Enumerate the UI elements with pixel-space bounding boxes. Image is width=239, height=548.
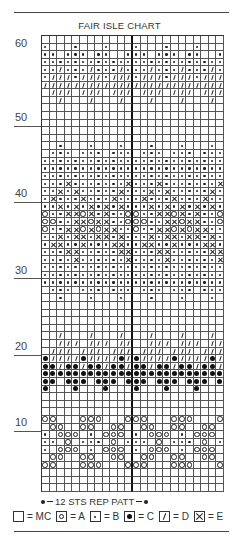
stitch-cell <box>163 150 171 158</box>
stitch-cell <box>42 249 50 257</box>
stitch-cell <box>80 393 88 401</box>
stitch-cell <box>118 424 126 432</box>
stitch-cell <box>80 287 88 295</box>
large-dot-icon <box>124 511 135 522</box>
stitch-cell <box>103 241 111 249</box>
stitch-cell <box>209 188 217 196</box>
row-label-40: 40 <box>15 187 27 199</box>
stitch-cell <box>42 355 50 363</box>
stitch-cell <box>118 317 126 325</box>
stitch-cell <box>110 416 118 424</box>
stitch-cell <box>57 469 65 477</box>
stitch-cell <box>133 446 141 454</box>
stitch-cell <box>118 249 126 257</box>
stitch-cell <box>65 378 73 386</box>
stitch-cell <box>133 188 141 196</box>
stitch-cell <box>156 264 164 272</box>
stitch-cell <box>163 188 171 196</box>
stitch-cell <box>95 439 103 447</box>
stitch-cell <box>216 249 224 257</box>
stitch-cell <box>141 332 149 340</box>
stitch-cell <box>194 424 202 432</box>
stitch-cell <box>201 74 209 82</box>
stitch-cell <box>194 484 202 492</box>
stitch-cell <box>216 256 224 264</box>
stitch-cell <box>57 112 65 120</box>
stitch-cell <box>80 256 88 264</box>
stitch-cell <box>65 294 73 302</box>
stitch-cell <box>95 462 103 470</box>
stitch-cell <box>42 279 50 287</box>
stitch-cell <box>57 393 65 401</box>
stitch-cell <box>209 226 217 234</box>
stitch-cell <box>125 310 133 318</box>
stitch-cell <box>141 44 149 52</box>
stitch-cell <box>171 370 179 378</box>
stitch-cell <box>179 332 187 340</box>
stitch-cell <box>80 203 88 211</box>
stitch-cell <box>72 408 80 416</box>
stitch-cell <box>57 325 65 333</box>
stitch-cell <box>65 279 73 287</box>
stitch-cell <box>171 302 179 310</box>
stitch-cell <box>72 120 80 128</box>
stitch-cell <box>118 310 126 318</box>
stitch-cell <box>186 120 194 128</box>
stitch-cell <box>103 82 111 90</box>
stitch-cell <box>209 135 217 143</box>
stitch-cell <box>201 249 209 257</box>
legend-item-d: = D <box>159 511 189 522</box>
stitch-cell <box>65 82 73 90</box>
stitch-cell <box>141 234 149 242</box>
stitch-cell <box>72 104 80 112</box>
stitch-cell <box>103 249 111 257</box>
stitch-cell <box>133 408 141 416</box>
fair-isle-grid <box>41 35 224 492</box>
stitch-cell <box>80 310 88 318</box>
stitch-cell <box>42 158 50 166</box>
stitch-cell <box>118 462 126 470</box>
stitch-cell <box>125 332 133 340</box>
stitch-cell <box>186 310 194 318</box>
stitch-cell <box>201 370 209 378</box>
stitch-cell <box>179 287 187 295</box>
stitch-cell <box>171 363 179 371</box>
stitch-cell <box>179 135 187 143</box>
stitch-cell <box>42 272 50 280</box>
stitch-cell <box>125 188 133 196</box>
arrow-left-dot-icon <box>41 500 45 504</box>
stitch-cell <box>125 439 133 447</box>
stitch-cell <box>125 89 133 97</box>
stitch-cell <box>110 370 118 378</box>
stitch-cell <box>118 59 126 67</box>
stitch-cell <box>72 218 80 226</box>
stitch-cell <box>50 325 58 333</box>
stitch-cell <box>216 454 224 462</box>
stitch-cell <box>194 97 202 105</box>
stitch-cell <box>209 363 217 371</box>
stitch-cell <box>148 424 156 432</box>
stitch-cell <box>65 74 73 82</box>
stitch-cell <box>125 66 133 74</box>
stitch-cell <box>209 196 217 204</box>
stitch-cell <box>194 355 202 363</box>
stitch-cell <box>179 188 187 196</box>
arrow-right-dash-icon <box>136 501 142 502</box>
row-tick-30 <box>14 278 41 279</box>
stitch-cell <box>118 363 126 371</box>
stitch-cell <box>57 218 65 226</box>
stitch-cell <box>110 66 118 74</box>
stitch-cell <box>133 142 141 150</box>
stitch-cell <box>118 188 126 196</box>
stitch-cell <box>125 142 133 150</box>
stitch-cell <box>216 120 224 128</box>
stitch-cell <box>141 393 149 401</box>
stitch-cell <box>65 431 73 439</box>
stitch-cell <box>72 287 80 295</box>
stitch-cell <box>179 401 187 409</box>
stitch-cell <box>179 196 187 204</box>
stitch-cell <box>50 51 58 59</box>
stitch-cell <box>50 484 58 492</box>
stitch-cell <box>80 477 88 485</box>
stitch-cell <box>141 408 149 416</box>
